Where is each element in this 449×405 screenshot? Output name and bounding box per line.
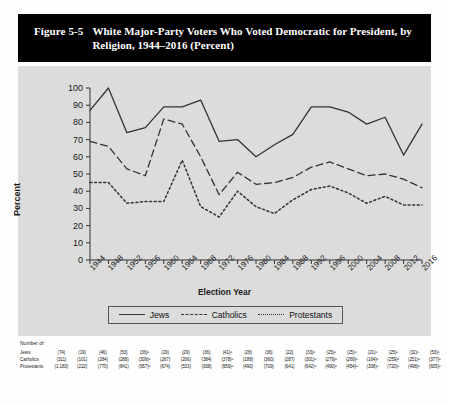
- sample-size-table: Number of: Jews(74)(19)(46)(53)(36)ᵃ(29)…: [20, 340, 445, 370]
- legend-label-catholics: Catholics: [212, 310, 247, 320]
- sample-size-cell: (36): [196, 349, 217, 356]
- sample-size-cell: (377)ᵃ: [424, 356, 445, 363]
- sample-size-row-label: Protestants: [20, 363, 51, 370]
- sample-size-cell: (206): [175, 356, 196, 363]
- sample-size-cell: (709): [258, 363, 279, 370]
- figure-title-bar: Figure 5-5 White Major-Party Voters Who …: [18, 14, 431, 62]
- sample-size-cell: (25)ᵃ: [321, 349, 342, 356]
- sample-size-cell: (641): [279, 363, 300, 370]
- legend-swatch-solid-icon: [119, 312, 145, 318]
- sample-size-rows: Jews(74)(19)(46)(53)(36)ᵃ(29)(29)(36)(41…: [20, 349, 445, 371]
- sample-size-cell: (498)ᵃ: [403, 363, 424, 370]
- sample-size-cell: (490)ᵃ: [321, 363, 342, 370]
- sample-size-row: Jews(74)(19)(46)(53)(36)ᵃ(29)(29)(36)(41…: [20, 349, 445, 356]
- sample-size-row-label: Catholics: [20, 356, 51, 363]
- sample-size-cell: (674): [155, 363, 176, 370]
- sample-size-cell: (279)ᵃ: [321, 356, 342, 363]
- sample-size-cell: (53)ᵃ: [424, 349, 445, 356]
- sample-size-cell: (36)ᵃ: [134, 349, 155, 356]
- sample-size-cell: (25)ᵃ: [383, 349, 404, 356]
- sample-size-cell: (605)ᵃ: [424, 363, 445, 370]
- sample-size-cell: (269)ᵃ: [341, 356, 362, 363]
- sample-size-cell: (28): [238, 349, 259, 356]
- figure-container: Figure 5-5 White Major-Party Voters Who …: [0, 0, 449, 405]
- figure-number: Figure 5-5: [34, 24, 83, 38]
- sample-size-cell: (29): [155, 349, 176, 356]
- sample-size-cell: (25)ᵃ: [341, 349, 362, 356]
- sample-size-cell: (259)ᵃ: [383, 356, 404, 363]
- legend-item-jews: Jews: [119, 310, 169, 320]
- sample-size-cell: (533): [175, 363, 196, 370]
- sample-size-cell: (251)ᵃ: [403, 356, 424, 363]
- sample-size-cell: (74): [51, 349, 72, 356]
- sample-size-cell: (938): [196, 363, 217, 370]
- sample-size-cell: (311): [51, 356, 72, 363]
- sample-size-cell: (188): [238, 356, 259, 363]
- sample-size-cell: (454)ᵃ: [341, 363, 362, 370]
- chart-legend: Jews Catholics Protestants: [108, 306, 343, 324]
- sample-size-cell: (21)ᵃ: [362, 349, 383, 356]
- sample-size-cell: (222): [72, 363, 93, 370]
- plot-area: Percent Election Year 010203040506070809…: [18, 66, 431, 336]
- sample-size-cell: (32)ᵃ: [403, 349, 424, 356]
- sample-size-cell: (164)ᵃ: [362, 356, 383, 363]
- sample-size-cell: (41)ᵃ: [217, 349, 238, 356]
- sample-size-cell: (46): [92, 349, 113, 356]
- legend-swatch-dotted-icon: [258, 312, 284, 318]
- sample-size-cell: (959)ᵃ: [217, 363, 238, 370]
- sample-size-cell: (288): [113, 356, 134, 363]
- sample-size-cell: (490): [238, 363, 259, 370]
- figure-title: White Major-Party Voters Who Voted Democ…: [92, 24, 422, 52]
- sample-size-cell: (101): [72, 356, 93, 363]
- sample-size-cell: (1,183): [51, 363, 72, 370]
- sample-size-cell: (308)ᵃ: [362, 363, 383, 370]
- sample-size-header: Number of:: [20, 340, 445, 347]
- sample-size-cell: (267): [155, 356, 176, 363]
- sample-size-row-label: Jews: [20, 349, 51, 356]
- sample-size-cell: (19): [72, 349, 93, 356]
- sample-size-cell: (22): [279, 349, 300, 356]
- sample-size-cell: (287): [279, 356, 300, 363]
- sample-size-cell: (384): [196, 356, 217, 363]
- legend-label-jews: Jews: [150, 310, 169, 320]
- legend-label-protestants: Protestants: [289, 310, 332, 320]
- sample-size-cell: (770): [92, 363, 113, 370]
- legend-item-protestants: Protestants: [258, 310, 332, 320]
- legend-swatch-dashed-icon: [181, 312, 207, 318]
- sample-size-cell: (36): [258, 349, 279, 356]
- sample-size-row: Catholics(311)(101)(284)(288)(309)ᵃ(267)…: [20, 356, 445, 363]
- sample-size-cell: (957)ᵃ: [134, 363, 155, 370]
- sample-size-cell: (33)ᵃ: [300, 349, 321, 356]
- sample-size-row: Protestants(1,183)(222)(770)(841)(957)ᵃ(…: [20, 363, 445, 370]
- chart-lines: [18, 66, 431, 336]
- sample-size-cell: (841): [113, 363, 134, 370]
- sample-size-cell: (720)ᵃ: [383, 363, 404, 370]
- sample-size-cell: (29): [175, 349, 196, 356]
- sample-size-cell: (301)ᵃ: [300, 356, 321, 363]
- sample-size-cell: (642)ᵃ: [300, 363, 321, 370]
- sample-size-cell: (53): [113, 349, 134, 356]
- legend-item-catholics: Catholics: [181, 310, 247, 320]
- chart-panel: Percent Election Year 010203040506070809…: [18, 66, 431, 336]
- sample-size-cell: (378)ᵃ: [217, 356, 238, 363]
- sample-size-cell: (360): [258, 356, 279, 363]
- sample-size-cell: (284): [92, 356, 113, 363]
- sample-size-cell: (309)ᵃ: [134, 356, 155, 363]
